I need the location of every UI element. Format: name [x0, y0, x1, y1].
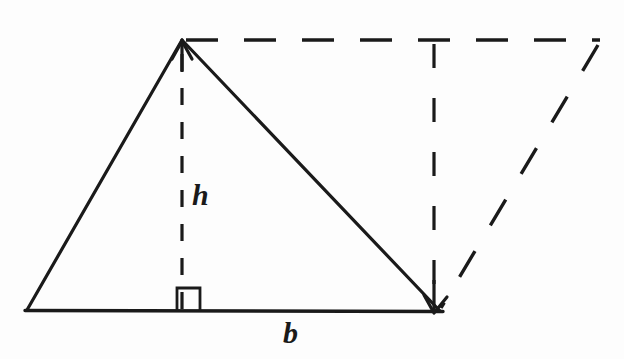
- height-altitude-line: [172, 41, 192, 309]
- triangle-left-edge: [27, 40, 182, 310]
- triangle-right-edge: [182, 40, 440, 311]
- solid-triangle: [25, 40, 443, 312]
- dashed-diagonal-edge: [441, 45, 598, 308]
- geometry-figure: h b: [0, 0, 624, 359]
- height-label: h: [192, 180, 209, 210]
- figure-canvas: [0, 0, 624, 359]
- dashed-mirrored-triangle: [186, 40, 600, 313]
- triangle-base-edge: [25, 311, 443, 312]
- base-label: b: [283, 318, 298, 348]
